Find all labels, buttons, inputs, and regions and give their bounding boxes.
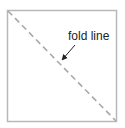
fold-line-label: fold line: [68, 29, 110, 43]
fold-diagram: fold line: [0, 0, 125, 128]
